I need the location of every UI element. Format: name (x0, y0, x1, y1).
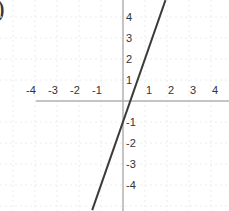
y-tick-label: 2 (126, 53, 132, 65)
x-tick-label: 2 (168, 84, 174, 96)
x-tick-label: -2 (70, 84, 80, 96)
x-tick-label: 4 (212, 84, 218, 96)
y-tick-label: -4 (126, 179, 136, 191)
y-tick-label: 1 (126, 74, 132, 86)
x-tick-label: 3 (190, 84, 196, 96)
x-tick-labels: -4-3-2-11234 (26, 84, 218, 96)
x-tick-label: -3 (48, 84, 58, 96)
y-tick-label: -2 (126, 137, 136, 149)
y-tick-label: -1 (126, 116, 136, 128)
coordinate-plane: -4-3-2-11234 4321-1-2-3-4 (0, 0, 229, 211)
x-tick-label: 1 (146, 84, 152, 96)
x-tick-label: -4 (26, 84, 36, 96)
x-tick-label: -1 (92, 84, 102, 96)
grid-lines (0, 0, 229, 211)
y-tick-label: -3 (126, 158, 136, 170)
y-tick-label: 4 (126, 11, 132, 23)
y-tick-label: 3 (126, 32, 132, 44)
